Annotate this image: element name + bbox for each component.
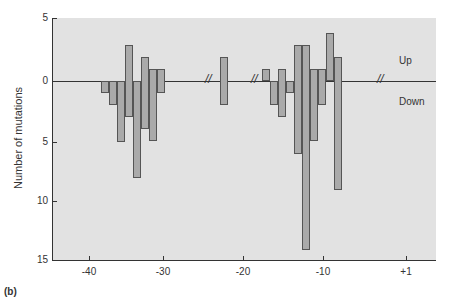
bar xyxy=(133,81,141,178)
y-axis-title: Number of mutations xyxy=(12,78,24,198)
bar xyxy=(101,81,109,93)
x-tick xyxy=(163,256,164,260)
bar xyxy=(270,81,278,105)
plot-area xyxy=(52,18,436,260)
bar xyxy=(302,45,310,251)
y-tick-label: 5 xyxy=(20,136,48,147)
bar xyxy=(326,33,334,81)
bar xyxy=(286,81,294,93)
y-tick-label: 5 xyxy=(20,12,48,23)
bar xyxy=(149,69,157,142)
bar xyxy=(334,57,342,190)
x-tick-label: -40 xyxy=(74,266,104,277)
bar xyxy=(318,69,326,105)
bar xyxy=(294,45,302,154)
chart-root: 5 0 5 10 15 -40 -30 -20 -10 +1 // // // … xyxy=(0,0,451,302)
bar xyxy=(262,69,270,81)
y-axis xyxy=(52,18,53,260)
x-tick-label: -10 xyxy=(308,266,338,277)
x-tick xyxy=(243,256,244,260)
x-tick-label: -20 xyxy=(228,266,258,277)
y-tick xyxy=(52,201,57,202)
bar xyxy=(310,69,318,142)
x-axis xyxy=(52,260,436,261)
x-tick xyxy=(406,256,407,260)
x-tick xyxy=(89,256,90,260)
axis-break-icon: // xyxy=(377,72,384,86)
y-tick xyxy=(52,18,57,19)
y-tick-label: 0 xyxy=(20,75,48,86)
bar xyxy=(117,81,125,142)
y-tick xyxy=(52,142,57,143)
x-tick-label: -30 xyxy=(148,266,178,277)
down-label: Down xyxy=(399,96,425,107)
bar xyxy=(220,57,228,105)
bar xyxy=(278,69,286,117)
y-tick-label: 15 xyxy=(20,254,48,265)
axis-break-icon: // xyxy=(251,72,258,86)
panel-label: (b) xyxy=(4,286,17,297)
bar xyxy=(157,69,165,93)
y-tick-label: 10 xyxy=(20,195,48,206)
bar xyxy=(141,57,149,130)
x-tick-label: +1 xyxy=(391,266,421,277)
bar xyxy=(125,45,133,118)
axis-break-icon: // xyxy=(205,72,212,86)
up-label: Up xyxy=(399,55,412,66)
bar xyxy=(109,81,117,105)
x-tick xyxy=(323,256,324,260)
